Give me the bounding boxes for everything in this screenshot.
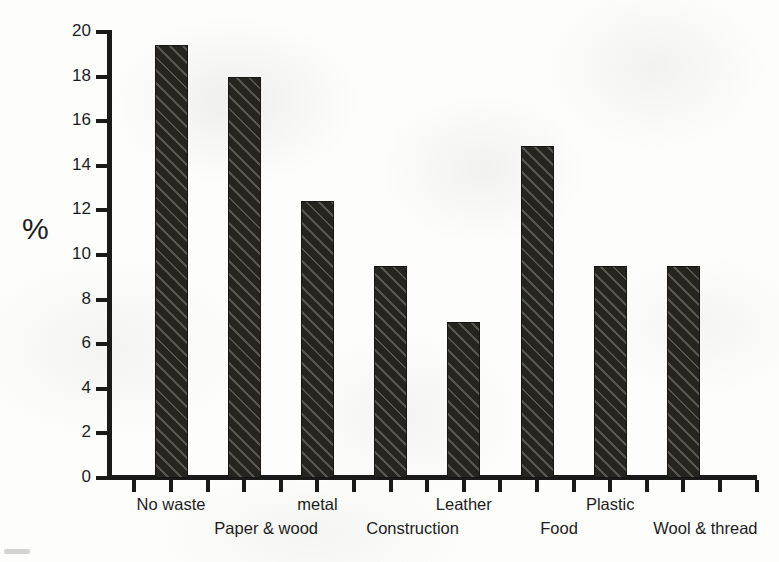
- x-tick-mark: [718, 480, 722, 492]
- x-tick-mark: [169, 480, 173, 492]
- y-tick-mark: [96, 164, 108, 168]
- y-tick-mark: [96, 253, 108, 257]
- x-axis-category-label: Wool & thread: [653, 519, 757, 538]
- x-axis-category-label: Food: [540, 519, 578, 538]
- y-tick-label: 12: [55, 199, 91, 219]
- x-tick-mark: [462, 480, 466, 492]
- y-axis-title: %: [22, 212, 49, 246]
- bar: [594, 266, 627, 478]
- bar: [155, 45, 188, 478]
- y-tick-mark: [96, 30, 108, 34]
- x-tick-mark: [681, 480, 685, 492]
- y-tick-mark: [96, 431, 108, 435]
- y-tick-mark: [96, 75, 108, 79]
- x-axis-category-label: Plastic: [586, 495, 635, 514]
- y-tick-mark: [96, 387, 108, 391]
- x-tick-mark: [352, 480, 356, 492]
- x-tick-mark: [645, 480, 649, 492]
- x-tick-mark: [279, 480, 283, 492]
- y-tick-mark: [96, 476, 108, 480]
- x-axis-category-label: No waste: [137, 495, 206, 514]
- y-tick-label: 4: [55, 378, 91, 398]
- y-tick-mark: [96, 208, 108, 212]
- bar: [374, 266, 407, 478]
- x-tick-mark: [206, 480, 210, 492]
- y-tick-label: 16: [55, 110, 91, 130]
- bar: [301, 201, 334, 478]
- bar: [521, 146, 554, 478]
- x-axis-category-label: Leather: [436, 495, 492, 514]
- y-tick-label: 18: [55, 66, 91, 86]
- y-tick-mark: [96, 342, 108, 346]
- bar-chart-plot-area: % 02468101214161820 No wastePaper & wood…: [0, 0, 779, 562]
- x-tick-mark: [315, 480, 319, 492]
- y-tick-label: 10: [55, 244, 91, 264]
- x-axis-category-label: Construction: [366, 519, 459, 538]
- x-tick-mark: [425, 480, 429, 492]
- y-tick-label: 0: [55, 467, 91, 487]
- y-tick-label: 8: [55, 289, 91, 309]
- x-tick-mark: [608, 480, 612, 492]
- y-tick-label: 14: [55, 155, 91, 175]
- x-tick-mark: [535, 480, 539, 492]
- x-axis-category-label: metal: [297, 495, 337, 514]
- y-tick-label: 20: [55, 21, 91, 41]
- x-axis-line: [107, 475, 757, 480]
- x-tick-mark: [572, 480, 576, 492]
- page-smudge: [4, 549, 30, 554]
- x-tick-mark: [755, 480, 759, 492]
- x-tick-mark: [132, 480, 136, 492]
- x-tick-mark: [498, 480, 502, 492]
- y-tick-label: 2: [55, 422, 91, 442]
- y-tick-label: 6: [55, 333, 91, 353]
- x-tick-mark: [242, 480, 246, 492]
- chart-page: % 02468101214161820 No wastePaper & wood…: [0, 0, 779, 562]
- x-tick-mark: [389, 480, 393, 492]
- bar: [447, 322, 480, 478]
- bar: [228, 77, 261, 478]
- y-tick-mark: [96, 298, 108, 302]
- y-tick-mark: [96, 119, 108, 123]
- bar: [667, 266, 700, 478]
- x-axis-category-label: Paper & wood: [214, 519, 318, 538]
